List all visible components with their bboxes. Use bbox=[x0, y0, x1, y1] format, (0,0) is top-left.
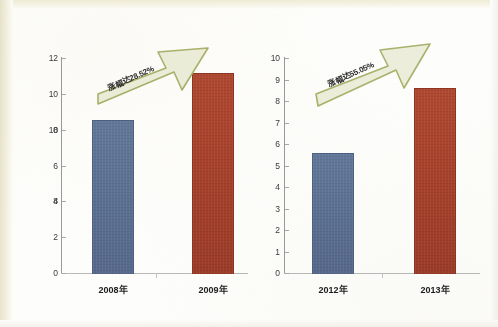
y-tick-label: 6 bbox=[258, 139, 280, 149]
y-tick-label: 2 bbox=[36, 232, 58, 242]
bar-2012 bbox=[312, 153, 354, 274]
y-tick-mark bbox=[62, 237, 66, 238]
y-tick-mark bbox=[62, 273, 66, 274]
y-tick-mark bbox=[285, 187, 289, 188]
y-tick-label: 3 bbox=[258, 204, 280, 214]
y-tick-label: 8 bbox=[36, 125, 58, 135]
y-tick-label: 10 bbox=[36, 89, 58, 99]
y-tick-label: 2 bbox=[258, 225, 280, 235]
y-tick-mark bbox=[285, 230, 289, 231]
plot-area-left: 12 10 8 10 8 6 4 2 0 bbox=[14, 0, 254, 327]
y-tick-label: 4 bbox=[258, 182, 280, 192]
y-tick-label: 0 bbox=[36, 268, 58, 278]
x-tick-label-2012: 2012年 bbox=[298, 283, 368, 296]
y-tick-label: 5 bbox=[258, 161, 280, 171]
y-tick-mark bbox=[285, 252, 289, 253]
y-tick-mark bbox=[285, 166, 289, 167]
y-tick-mark bbox=[285, 58, 289, 59]
y-tick-label: 1 bbox=[258, 247, 280, 257]
y-tick-mark bbox=[62, 94, 66, 95]
plot-area-right: 10 9 8 7 6 5 4 3 2 1 0 bbox=[252, 0, 492, 327]
y-tick-label: 4 bbox=[36, 196, 58, 206]
y-tick-mark bbox=[285, 273, 289, 274]
growth-annotation-label: 涨幅达55.05% bbox=[326, 58, 376, 88]
bar-2009 bbox=[192, 73, 234, 274]
bar-chart-left: 12 10 8 10 8 6 4 2 0 bbox=[14, 0, 254, 327]
growth-annotation-label: 涨幅达28.52% bbox=[106, 62, 156, 92]
y-tick-mark bbox=[285, 209, 289, 210]
y-tick-label: 10 bbox=[258, 53, 280, 63]
scan-left-edge bbox=[0, 0, 13, 327]
y-tick-mark bbox=[62, 58, 66, 59]
x-tick-label-2008: 2008年 bbox=[78, 283, 148, 296]
bar-2008 bbox=[92, 120, 134, 274]
category-divider bbox=[382, 273, 383, 278]
y-tick-mark bbox=[285, 80, 289, 81]
y-tick-label: 6 bbox=[36, 161, 58, 171]
y-tick-mark bbox=[285, 101, 289, 102]
y-tick-mark bbox=[62, 130, 66, 131]
y-tick-label: 9 bbox=[258, 75, 280, 85]
scanned-figure-page: 12 10 8 10 8 6 4 2 0 bbox=[0, 0, 498, 327]
y-tick-label: 12 bbox=[36, 53, 58, 63]
y-tick-mark bbox=[285, 123, 289, 124]
category-divider bbox=[156, 273, 157, 278]
bar-chart-right: 10 9 8 7 6 5 4 3 2 1 0 bbox=[252, 0, 492, 327]
y-tick-label: 8 bbox=[258, 96, 280, 106]
x-tick-label-2009: 2009年 bbox=[178, 283, 248, 296]
y-tick-mark bbox=[62, 201, 66, 202]
bar-2013 bbox=[414, 88, 456, 274]
y-tick-mark bbox=[62, 166, 66, 167]
y-tick-label: 0 bbox=[258, 268, 280, 278]
y-tick-mark bbox=[285, 144, 289, 145]
x-tick-label-2013: 2013年 bbox=[400, 283, 470, 296]
y-tick-label: 7 bbox=[258, 118, 280, 128]
